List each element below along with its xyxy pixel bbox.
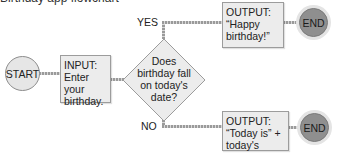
yes-branch-label: YES: [137, 16, 158, 28]
connector-output-no-end: [288, 126, 300, 129]
output-no-line-2: “Today is” +: [226, 127, 285, 139]
connector-start-input: [39, 72, 60, 75]
end-yes-label: END: [302, 17, 324, 29]
output-yes-line-3: birthday!”: [226, 30, 280, 42]
output-yes-line-1: OUTPUT:: [226, 6, 280, 18]
connector-no-horizontal: [162, 125, 222, 128]
connector-output-yes-end: [283, 21, 299, 24]
output-yes-node: OUTPUT: “Happy birthday!”: [222, 2, 284, 48]
decision-line-4: date?: [126, 91, 202, 103]
decision-line-1: Does: [126, 55, 202, 67]
no-branch-label: NO: [141, 120, 157, 132]
decision-node: Does birthday fall on today's date?: [126, 55, 202, 103]
connector-yes-horizontal: [162, 21, 222, 24]
decision-line-3: on today's: [126, 79, 202, 91]
input-line-2: Enter your: [64, 71, 107, 95]
decision-line-2: birthday fall: [126, 67, 202, 79]
start-node: START: [5, 56, 40, 91]
input-line-3: birthday.: [64, 95, 107, 107]
end-no-node: END: [300, 113, 329, 142]
end-no-label: END: [303, 122, 325, 134]
output-no-line-3: today's date.: [226, 139, 285, 153]
diagram-title: Birthday app flowchart: [0, 0, 119, 5]
end-yes-node: END: [299, 8, 328, 37]
input-line-1: INPUT:: [64, 59, 107, 71]
output-yes-line-2: “Happy: [226, 18, 280, 30]
output-no-line-1: OUTPUT:: [226, 115, 285, 127]
output-no-node: OUTPUT: “Today is” + today's date.: [222, 111, 289, 151]
input-node: INPUT: Enter your birthday.: [60, 55, 111, 103]
start-label: START: [6, 68, 39, 80]
